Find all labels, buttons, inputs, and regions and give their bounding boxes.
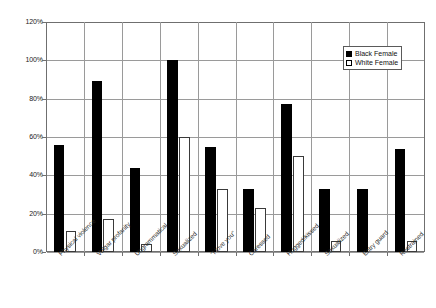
legend-item-black-female: Black Female xyxy=(346,49,398,58)
legend-label: White Female xyxy=(355,59,398,67)
category-separator xyxy=(160,22,161,252)
bar-black-female xyxy=(357,189,368,252)
legend-swatch-icon xyxy=(346,60,352,66)
category-separator xyxy=(198,22,199,252)
bar-black-female xyxy=(243,189,254,252)
legend-item-white-female: White Female xyxy=(346,58,398,67)
bar-black-female xyxy=(130,168,141,252)
y-axis-tick-label: 40% xyxy=(3,171,43,179)
y-axis-tick-label: 60% xyxy=(3,133,43,141)
category-separator xyxy=(311,22,312,252)
category-separator xyxy=(236,22,237,252)
bar-black-female xyxy=(167,60,178,252)
y-axis-tick-label: 100% xyxy=(3,56,43,64)
y-axis-tick-label: 20% xyxy=(3,210,43,218)
bar-chart: 0%20%40%60%80%100%120% Physical violence… xyxy=(0,0,436,308)
legend-swatch-icon xyxy=(346,51,352,57)
bar-group xyxy=(122,22,160,252)
bar-black-female xyxy=(395,149,406,253)
x-axis: Physical violenceVulgar profanityUngramm… xyxy=(0,252,436,308)
category-separator xyxy=(273,22,274,252)
bar-group xyxy=(160,22,198,252)
bar-group xyxy=(236,22,274,252)
bar-group xyxy=(273,22,311,252)
chart-legend: Black Female White Female xyxy=(343,46,402,70)
bar-black-female xyxy=(281,104,292,252)
bar-group xyxy=(198,22,236,252)
category-separator xyxy=(84,22,85,252)
bar-black-female xyxy=(205,147,216,252)
bar-black-female xyxy=(54,145,65,252)
category-separator xyxy=(122,22,123,252)
legend-label: Black Female xyxy=(355,50,397,58)
bar-black-female xyxy=(319,189,330,252)
y-axis-tick-label: 80% xyxy=(3,95,43,103)
y-axis-tick-label: 120% xyxy=(3,18,43,26)
bar-group xyxy=(46,22,84,252)
